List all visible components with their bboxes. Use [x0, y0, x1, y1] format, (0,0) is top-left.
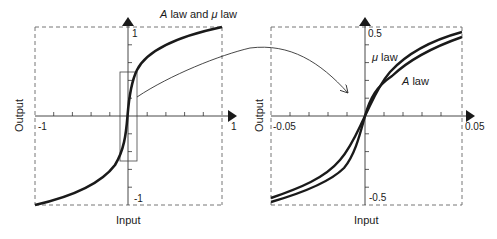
mu-law-label: μ law — [371, 51, 398, 63]
right-x-axis-label: Input — [354, 214, 378, 226]
right-x-max-label: 0.05 — [465, 121, 485, 132]
left-x-min-label: -1 — [38, 121, 47, 132]
right-y-axis-label: Output — [253, 99, 265, 132]
title-mu-symbol: μ — [210, 8, 217, 20]
left-plot: 1 -1 1 -1 A law and μ law Input Output — [13, 8, 237, 226]
left-y-axis-label: Output — [13, 99, 25, 132]
left-y-axis-arrow-icon — [122, 17, 134, 26]
left-y-max-label: 1 — [132, 28, 138, 39]
right-x-min-label: -0.05 — [273, 121, 296, 132]
a-law-label: A law — [401, 75, 429, 87]
right-y-min-label: -0.5 — [369, 192, 387, 203]
companding-diagram: 1 -1 1 -1 A law and μ law Input Output — [0, 0, 497, 239]
title-rest: law and — [167, 8, 211, 20]
title-a-symbol: A — [159, 8, 167, 20]
right-y-max-label: 0.5 — [368, 28, 382, 39]
left-y-min-label: -1 — [134, 193, 143, 204]
left-plot-title: A law and μ law — [159, 8, 237, 20]
a-law-curve — [271, 37, 462, 202]
a-symbol: A — [401, 75, 409, 87]
title-end: law — [217, 8, 237, 20]
zoom-arrow — [137, 47, 348, 97]
right-plot: 0.5 -0.05 0.05 -0.5 μ law A law Input Ou… — [253, 17, 485, 226]
mu-law-rest: law — [378, 51, 398, 63]
a-law-rest: law — [409, 75, 429, 87]
left-x-axis-label: Input — [116, 214, 140, 226]
right-y-axis-arrow-icon — [359, 17, 371, 26]
left-x-max-label: 1 — [231, 121, 237, 132]
mu-symbol: μ — [371, 51, 378, 63]
